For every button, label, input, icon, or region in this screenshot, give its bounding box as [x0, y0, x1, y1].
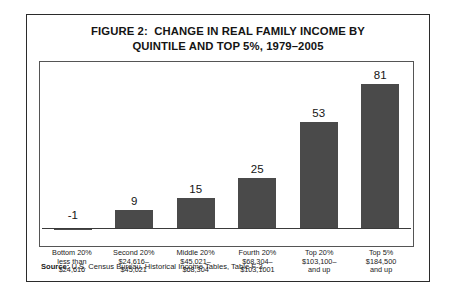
bar-value-label: 81: [374, 69, 387, 82]
bar-rect: [300, 122, 338, 228]
bar-item: 25: [227, 62, 289, 228]
bar-rect: [238, 178, 276, 228]
figure-container: FIGURE 2: CHANGE IN REAL FAMILY INCOME B…: [26, 14, 430, 282]
figure-title: FIGURE 2: CHANGE IN REAL FAMILY INCOME B…: [27, 24, 429, 53]
bar-item: 81: [350, 62, 412, 228]
bar-series: -1 9 15 25 53: [42, 62, 411, 228]
plot-frame: -1 9 15 25 53: [39, 61, 414, 247]
bar-rect: [361, 84, 399, 228]
bar-item: 53: [288, 62, 350, 228]
bar-rect: [177, 198, 215, 228]
category-label-line: and up: [289, 266, 349, 275]
figure-title-line-1: FIGURE 2: CHANGE IN REAL FAMILY INCOME B…: [27, 24, 429, 39]
plot-area: -1 9 15 25 53: [40, 62, 413, 246]
category-label-line: and up: [351, 266, 411, 275]
bar-item: 9: [104, 62, 166, 228]
bar-value-label: 25: [251, 163, 264, 176]
category-label: Top 20% $103,100– and up: [288, 249, 350, 275]
source-text: U.S. Census Bureau, Historical Income Ta…: [69, 262, 265, 271]
bar-item: 15: [165, 62, 227, 228]
bar-value-label: 15: [189, 183, 202, 196]
category-label: Top 5% $184,500 and up: [350, 249, 412, 275]
bar-item: -1: [42, 62, 104, 228]
x-axis-baseline: [42, 228, 411, 229]
figure-title-line-2: QUINTILE AND TOP 5%, 1979–2005: [27, 39, 429, 54]
bar-rect: [115, 210, 153, 228]
source-label: Source:: [41, 262, 69, 271]
bar-value-label: 53: [312, 107, 325, 120]
source-note: Source: U.S. Census Bureau, Historical I…: [41, 262, 265, 272]
bar-value-label: 9: [131, 195, 137, 208]
bar-value-label: -1: [68, 209, 78, 222]
